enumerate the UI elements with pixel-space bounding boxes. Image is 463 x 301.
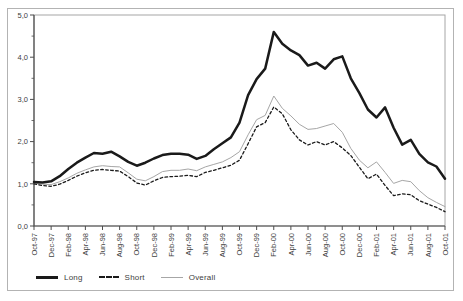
x-axis-tick-label: Apr-99 [184, 233, 193, 256]
x-axis-tick-label: Jun-98 [98, 233, 107, 256]
y-axis-tick-label: 3,0 [18, 95, 28, 104]
legend-item-overall: Overall [161, 273, 216, 282]
y-axis-tick-label: 5,0 [18, 11, 28, 20]
x-axis-tick-label: Feb-99 [167, 233, 176, 257]
x-axis-tick-label: Aug-98 [115, 233, 124, 257]
x-axis-tick-label: Apr-00 [287, 233, 296, 256]
x-axis-tick-label: Oct-99 [235, 233, 244, 256]
y-axis-tick-label: 0,0 [18, 222, 28, 231]
x-axis-tick-label: Dec-98 [150, 233, 159, 257]
y-axis-tick-label: 4,0 [18, 53, 28, 62]
legend-line-short-sample [99, 276, 119, 278]
x-axis-tick-label: Oct-00 [338, 233, 347, 256]
legend-label-overall: Overall [189, 273, 216, 282]
chart-legend: Long Short Overall [36, 270, 231, 284]
x-axis-tick-label: Apr-98 [81, 233, 90, 256]
legend-item-long: Long [36, 273, 83, 282]
x-axis-tick-label: Feb-00 [269, 233, 278, 257]
x-axis-tick-label: Aug-99 [218, 233, 227, 257]
x-axis-tick-label: Apr-01 [389, 233, 398, 256]
legend-line-long-sample [36, 276, 58, 279]
x-axis-tick-label: Dec-00 [355, 233, 364, 257]
x-axis-tick-label: Feb-98 [64, 233, 73, 257]
series-line-overall [34, 96, 445, 207]
x-axis-tick-label: Dec-99 [252, 233, 261, 257]
x-axis-tick-label: Jun-01 [406, 233, 415, 256]
legend-line-overall-sample [161, 277, 183, 278]
x-axis-tick-label: Feb-01 [372, 233, 381, 257]
legend-item-short: Short [99, 273, 145, 282]
x-axis-tick-label: Oct-01 [441, 233, 450, 256]
chart-figure: 0,01,02,03,04,05,0Oct-97Dec-97Feb-98Apr-… [0, 0, 463, 301]
x-axis-tick-label: Jun-99 [201, 233, 210, 256]
x-axis-tick-label: Jun-00 [304, 233, 313, 256]
x-axis-tick-label: Aug-01 [424, 233, 433, 257]
y-axis-tick-label: 2,0 [18, 137, 28, 146]
legend-label-long: Long [64, 273, 83, 282]
x-axis-tick-label: Aug-00 [321, 233, 330, 257]
x-axis-tick-label: Dec-97 [47, 233, 56, 257]
x-axis-tick-label: Oct-98 [132, 233, 141, 256]
legend-label-short: Short [125, 273, 145, 282]
x-axis-tick-label: Oct-97 [30, 233, 39, 256]
line-chart: 0,01,02,03,04,05,0Oct-97Dec-97Feb-98Apr-… [0, 0, 463, 301]
y-axis-tick-label: 1,0 [18, 180, 28, 189]
